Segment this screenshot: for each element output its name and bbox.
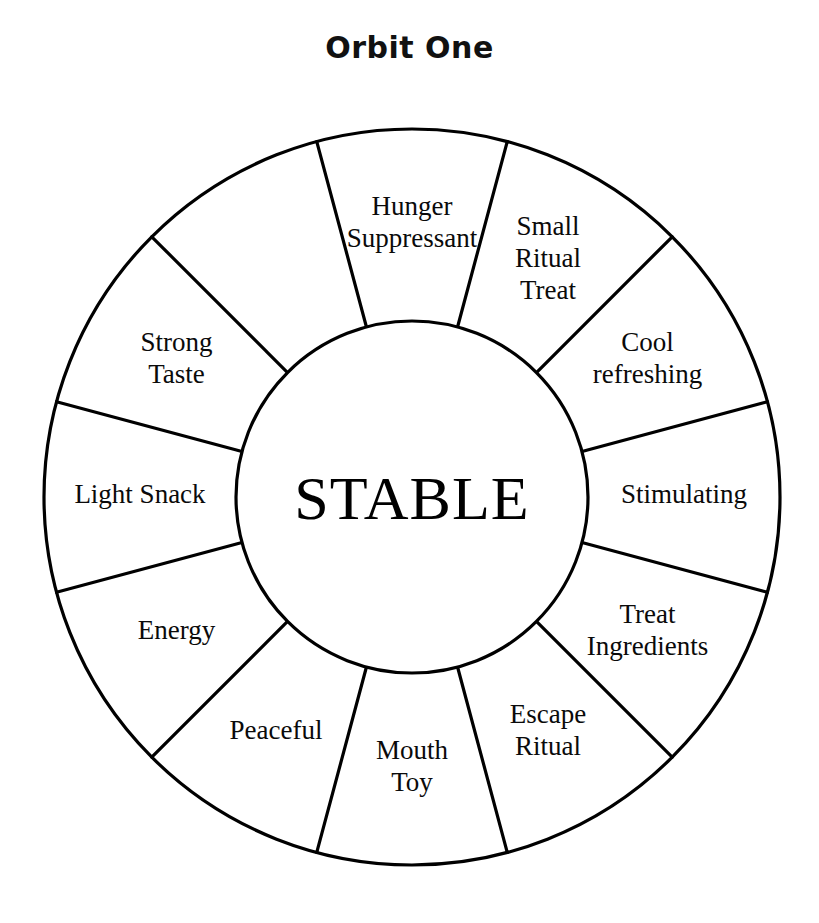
segment-label-line: Peaceful [230, 715, 323, 745]
segment-label-line: Treat [620, 599, 677, 629]
wheel-svg: STABLE HungerSuppressantSmallRitualTreat… [0, 0, 819, 923]
segment-label-line: Strong [140, 327, 212, 357]
segment-label-line: Taste [148, 359, 205, 389]
segment-label-line: Ritual [515, 244, 581, 274]
segment-label-line: Small [516, 212, 579, 242]
segment-label-line: Stimulating [621, 479, 747, 509]
segment-label-energy: Energy [138, 615, 216, 645]
segment-label-line: Hunger [372, 191, 453, 221]
segment-label-line: Escape [510, 699, 586, 729]
segment-label-stimulating: Stimulating [621, 479, 747, 509]
segment-label-line: Toy [391, 767, 433, 797]
hub-label: STABLE [294, 464, 529, 532]
segment-label-line: Light Snack [74, 479, 206, 509]
segment-label-line: Treat [520, 276, 577, 306]
segment-label-line: Suppressant [347, 223, 478, 253]
segment-label-small-ritual-treat: SmallRitualTreat [515, 212, 581, 306]
segment-label-light-snack: Light Snack [74, 479, 206, 509]
segment-label-line: Mouth [376, 735, 449, 765]
segment-label-line: refreshing [593, 359, 702, 389]
orbit-wheel-diagram: STABLE HungerSuppressantSmallRitualTreat… [0, 0, 819, 923]
segment-label-line: Cool [621, 327, 674, 357]
segment-label-peaceful: Peaceful [230, 715, 323, 745]
segment-label-line: Energy [138, 615, 216, 645]
segment-label-line: Ingredients [587, 631, 708, 661]
segment-label-line: Ritual [515, 731, 581, 761]
